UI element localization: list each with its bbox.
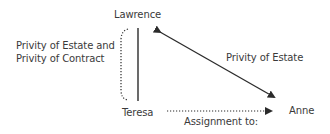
privity-estate-arrow — [160, 32, 274, 97]
label-privity-contract: Privity of Contract — [16, 53, 104, 65]
node-lawrence: Lawrence — [114, 9, 161, 21]
label-assignment: Assignment to: — [184, 116, 258, 128]
label-privity-estate-and: Privity of Estate and — [16, 40, 115, 52]
label-privity-estate: Privity of Estate — [226, 52, 303, 64]
node-anne: Anne — [289, 105, 314, 117]
diagram-canvas — [0, 0, 330, 134]
dotted-bracket — [121, 29, 128, 100]
node-teresa: Teresa — [122, 107, 153, 119]
